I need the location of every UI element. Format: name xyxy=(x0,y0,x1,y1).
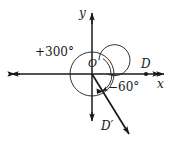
point-D-prime-label: D′ xyxy=(101,120,113,132)
point-D-dot xyxy=(144,72,148,76)
x-axis-label: x xyxy=(157,78,164,90)
coterminal-angle-figure: y x O D D′ +300° −60° xyxy=(0,0,173,147)
origin-label: O xyxy=(88,58,97,69)
figure-canvas xyxy=(0,0,173,147)
angle-label-positive: +300° xyxy=(35,46,74,58)
angle-label-negative: −60° xyxy=(108,81,139,93)
arc-plus-300 xyxy=(99,45,130,76)
y-axis-label: y xyxy=(79,7,86,19)
point-D-label: D xyxy=(141,58,151,70)
